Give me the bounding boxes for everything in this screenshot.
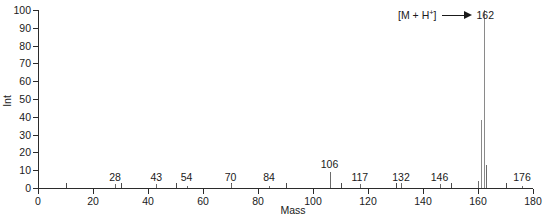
x-tick-label-160: 160 [458, 196, 498, 207]
y-tick-label-wrap-40: 40 [0, 112, 31, 123]
y-tick-label-wrap-90: 90 [0, 23, 31, 34]
peak-label-54: 54 [167, 172, 207, 183]
y-tick-label-wrap-100: 100 [0, 5, 31, 16]
y-tick-label-100: 100 [5, 5, 31, 16]
y-tick-label-wrap-50: 50 [0, 94, 31, 105]
x-tick-label-100: 100 [293, 196, 333, 207]
x-tick-180 [533, 189, 534, 194]
peak-84 [269, 186, 270, 188]
x-tick-label-wrap-0: 0 [18, 196, 58, 207]
peak-132 [401, 183, 402, 188]
x-tick-120 [368, 189, 369, 194]
peak-28 [115, 184, 116, 188]
x-axis-line [38, 188, 533, 189]
annotation-formula-suffix: ] [434, 9, 437, 21]
peak-146 [440, 184, 441, 188]
x-tick-label-wrap-120: 120 [348, 196, 388, 207]
x-tick-label-20: 20 [73, 196, 113, 207]
peak-176 [522, 186, 523, 188]
y-tick-label-0: 0 [5, 183, 31, 194]
x-tick-100 [313, 189, 314, 194]
peak-label-106: 106 [310, 159, 350, 170]
y-tick-label-40: 40 [5, 112, 31, 123]
x-tick-20 [93, 189, 94, 194]
x-tick-label-wrap-40: 40 [128, 196, 168, 207]
arrow-shaft [442, 15, 466, 16]
y-tick-label-10: 10 [5, 165, 31, 176]
peak-label-84: 84 [249, 172, 289, 183]
arrow-head [464, 11, 472, 19]
x-tick-label-80: 80 [238, 196, 278, 207]
peak-label-117: 117 [340, 172, 380, 183]
x-tick-160 [478, 189, 479, 194]
y-tick-label-wrap-20: 20 [0, 147, 31, 158]
x-tick-label-120: 120 [348, 196, 388, 207]
x-tick-label-wrap-20: 20 [73, 196, 113, 207]
x-tick-0 [38, 189, 39, 194]
peak-series [38, 10, 533, 188]
annotation-target-label: 162 [477, 9, 495, 21]
y-tick-label-wrap-0: 0 [0, 183, 31, 194]
peak-label-28: 28 [95, 172, 135, 183]
y-tick-label-wrap-10: 10 [0, 165, 31, 176]
annotation-formula-prefix: [M + H [398, 9, 429, 21]
x-tick-label-wrap-80: 80 [238, 196, 278, 207]
x-tick-label-60: 60 [183, 196, 223, 207]
x-tick-label-wrap-140: 140 [403, 196, 443, 207]
y-tick-label-60: 60 [5, 76, 31, 87]
peak-160 [478, 181, 479, 188]
y-tick-label-20: 20 [5, 147, 31, 158]
peak-label-70: 70 [211, 172, 251, 183]
x-tick-label-40: 40 [128, 196, 168, 207]
y-tick-label-80: 80 [5, 41, 31, 52]
peak-54 [187, 186, 188, 188]
y-tick-label-70: 70 [5, 58, 31, 69]
x-tick-140 [423, 189, 424, 194]
right-arrow-icon [442, 11, 472, 20]
x-tick-label-0: 0 [18, 196, 58, 207]
y-tick-label-wrap-70: 70 [0, 58, 31, 69]
y-tick-label-wrap-30: 30 [0, 130, 31, 141]
peak-70 [231, 184, 232, 188]
peak-161 [481, 120, 482, 188]
peak-163 [486, 165, 487, 188]
annotation-formula: [M + H+] [398, 9, 437, 21]
x-tick-label-180: 180 [513, 196, 553, 207]
peak-label-146: 146 [420, 172, 460, 183]
peak-106 [330, 172, 331, 188]
y-tick-label-wrap-80: 80 [0, 41, 31, 52]
peak-117 [360, 184, 361, 188]
peak-label-176: 176 [502, 172, 542, 183]
y-tick-label-90: 90 [5, 23, 31, 34]
x-tick-40 [148, 189, 149, 194]
peak-43 [156, 184, 157, 188]
x-tick-80 [258, 189, 259, 194]
x-tick-label-140: 140 [403, 196, 443, 207]
x-tick-label-wrap-60: 60 [183, 196, 223, 207]
mass-spectrum-chart: Int Mass 0102030405060708090100 02040608… [0, 0, 558, 220]
y-tick-label-50: 50 [5, 94, 31, 105]
peak-label-132: 132 [381, 172, 421, 183]
x-tick-60 [203, 189, 204, 194]
y-tick-label-30: 30 [5, 130, 31, 141]
peak-162 [484, 10, 485, 188]
x-tick-label-wrap-160: 160 [458, 196, 498, 207]
x-tick-label-wrap-100: 100 [293, 196, 333, 207]
x-tick-label-wrap-180: 180 [513, 196, 553, 207]
molecular-ion-annotation: [M + H+] 162 [398, 8, 494, 22]
y-tick-label-wrap-60: 60 [0, 76, 31, 87]
